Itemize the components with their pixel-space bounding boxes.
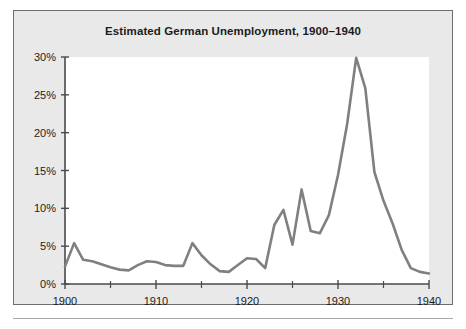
y-tick-label: 5% [40,240,56,252]
unemployment-line-chart: 0%5%10%15%20%25%30% 19001910192019301940 [14,11,454,306]
y-tick-label: 10% [34,202,56,214]
y-axis-tick-labels: 0%5%10%15%20%25%30% [34,51,56,290]
x-axis-tick-labels: 19001910192019301940 [53,295,441,306]
y-tick-label: 20% [34,127,56,139]
y-tick-label: 15% [34,165,56,177]
x-tick-label: 1930 [326,295,350,306]
footer-divider [13,318,453,319]
x-tick-label: 1910 [144,295,168,306]
x-tick-label: 1920 [235,295,259,306]
x-tick-label: 1940 [417,295,441,306]
chart-figure: Estimated German Unemployment, 1900–1940… [13,10,453,305]
y-tick-label: 30% [34,51,56,63]
x-tick-label: 1900 [53,295,77,306]
y-tick-label: 25% [34,89,56,101]
y-tick-label: 0% [40,278,56,290]
